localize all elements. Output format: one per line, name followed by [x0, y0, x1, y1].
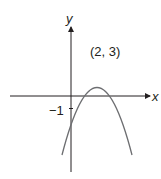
y-intercept-label: −1 — [49, 104, 64, 117]
vertex-label: (2, 3) — [90, 45, 120, 58]
y-axis-label: y — [66, 12, 73, 25]
x-axis-label: x — [152, 90, 159, 103]
graph-canvas — [0, 0, 161, 179]
parabola-curve — [62, 88, 132, 156]
